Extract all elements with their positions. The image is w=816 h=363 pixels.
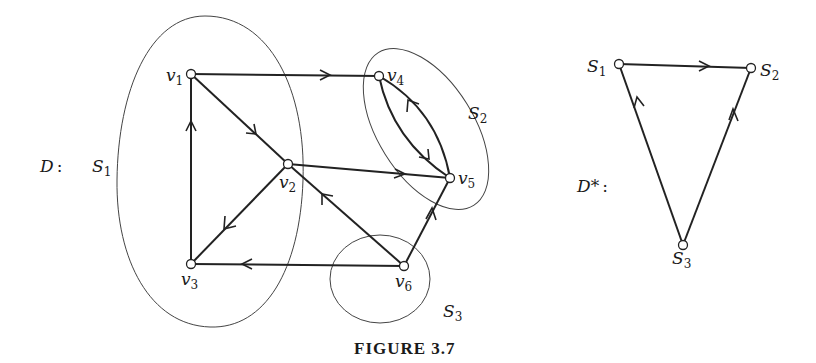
label-dstar-s1: S1: [587, 56, 606, 79]
vertex-v2: [284, 160, 293, 169]
label-d-star: D*:: [576, 176, 608, 196]
label-v6: v6: [395, 271, 412, 294]
arc-v1-v2: [191, 74, 288, 164]
vertex-s2: [747, 64, 756, 73]
label-v3: v3: [181, 269, 198, 292]
condensation-d-star: S1 S2 S3 D*:: [576, 56, 779, 271]
digraph-d: v1 v2 v3 v4 v5 v6 S1 S2 S3 D:: [39, 16, 514, 327]
arc-v6-v2: [288, 164, 404, 266]
label-s1: S1: [92, 156, 111, 179]
label-s2: S2: [468, 103, 487, 126]
label-v2: v2: [279, 172, 296, 195]
arc-v6-v5: [404, 178, 450, 266]
label-d: D:: [39, 156, 62, 176]
arrowhead-s3-s1: [634, 97, 644, 108]
arc-v5-v4: [379, 76, 450, 178]
vertex-s1: [615, 60, 624, 69]
vertex-v6: [400, 262, 409, 271]
arrowheads-d: [186, 70, 436, 269]
arc-v2-v5: [288, 164, 450, 178]
arc-s3-s2: [683, 68, 751, 245]
figure-canvas: v1 v2 v3 v4 v5 v6 S1 S2 S3 D: S1 S2 S3 D…: [0, 0, 816, 363]
figure-caption: FIGURE 3.7: [354, 339, 456, 358]
label-v1: v1: [166, 65, 183, 88]
vertex-v1: [187, 70, 196, 79]
region-s2: [338, 27, 515, 231]
arc-v4-v5: [379, 76, 450, 178]
vertex-v3: [187, 260, 196, 269]
label-v5: v5: [458, 168, 475, 191]
label-dstar-s3: S3: [672, 248, 691, 271]
region-s1: [117, 16, 303, 327]
label-s3: S3: [443, 301, 462, 324]
vertex-v4: [375, 72, 384, 81]
arc-s1-s2: [619, 64, 751, 68]
label-dstar-s2: S2: [760, 60, 779, 83]
label-v4: v4: [387, 65, 405, 88]
arc-s3-s1: [619, 64, 683, 245]
vertex-v5: [446, 174, 455, 183]
region-s3: [330, 235, 430, 323]
arc-v6-v3: [191, 264, 404, 266]
arc-v2-v3: [191, 164, 288, 264]
arc-v1-v4: [191, 74, 379, 76]
